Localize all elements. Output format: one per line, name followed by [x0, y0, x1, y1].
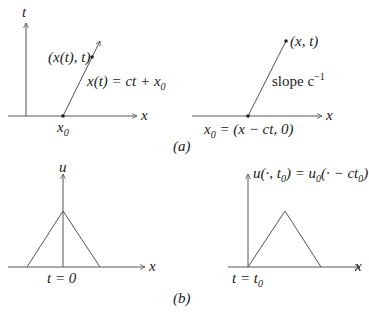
slope-label: slope c−1	[272, 72, 325, 89]
xt-point	[90, 55, 94, 59]
x-axis-label: x	[141, 108, 148, 123]
x-axis-label: x	[355, 259, 362, 274]
time-t0-label: t = t0	[232, 271, 263, 289]
u-profile-equation-label: u(·, t0) = u0(· − ct0)	[253, 166, 368, 184]
x0-point	[246, 114, 250, 118]
xt-label: (x, t)	[290, 34, 318, 49]
x-axis-label: x	[326, 108, 333, 123]
caption-a: (a)	[173, 139, 191, 154]
panel-b-left	[8, 174, 145, 267]
translated-profile	[248, 211, 321, 267]
point-label: (x(t), t)	[48, 50, 90, 65]
t-axis-label: t	[22, 5, 26, 20]
x0-label: x0	[57, 120, 69, 138]
panel-a-left	[8, 23, 137, 118]
x0-definition-label: x0 = (x − ct, 0)	[204, 122, 293, 140]
xt-point	[284, 39, 288, 43]
x-axis-label: x	[149, 259, 156, 274]
panel-b-right	[228, 174, 360, 267]
u-axis-label: u	[59, 160, 67, 175]
line-equation-label: x(t) = ct + x0	[87, 74, 166, 92]
caption-b: (b)	[173, 291, 191, 306]
time-label: t = 0	[47, 271, 76, 286]
x0-point	[61, 114, 65, 118]
